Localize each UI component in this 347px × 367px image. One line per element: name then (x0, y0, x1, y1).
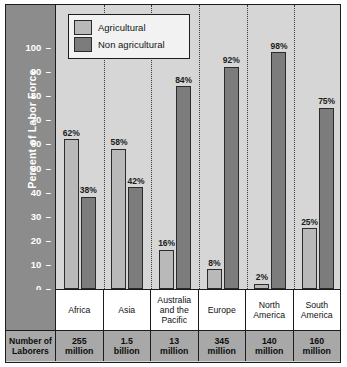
bar-value-label-non-agricultural-4: 92% (218, 55, 245, 65)
bar-value-label-agricultural-2: 58% (105, 137, 132, 147)
laborers-row-header: Number of Laborers (6, 331, 56, 361)
bar-value-label-non-agricultural-1: 38% (75, 185, 102, 195)
chart-legend: AgriculturalNon agricultural (68, 14, 190, 59)
y-axis-tick-60: 60 – (31, 138, 53, 149)
category-cell-6: SouthAmerica (294, 290, 341, 330)
category-cell-2: Asia (104, 290, 152, 330)
bar-group-4: 8%92% (199, 5, 247, 289)
y-axis-band: Percent of Labor Force 100 –90 –80 –70 –… (6, 5, 56, 290)
chart-figure: Percent of Labor Force 100 –90 –80 –70 –… (0, 0, 347, 367)
bar-non-agricultural-5 (271, 52, 286, 288)
y-axis-tick-80: 80 – (31, 90, 53, 101)
laborers-header-line2: Laborers (12, 346, 49, 356)
category-row-spacer (6, 290, 56, 330)
bar-value-label-non-agricultural-3: 84% (170, 75, 197, 85)
legend-label-1: Agricultural (98, 22, 146, 33)
legend-item-2: Non agricultural (74, 36, 184, 53)
bar-group-6: 25%75% (294, 5, 342, 289)
y-axis-tick-40: 40 – (31, 186, 53, 197)
laborers-cell-3: 13million (151, 331, 199, 361)
bar-value-label-non-agricultural-2: 42% (122, 176, 149, 186)
category-cell-3: Australiaand thePacific (151, 290, 199, 330)
y-axis-tick-10: 10 – (31, 258, 53, 269)
laborers-cell-6: 160million (294, 331, 341, 361)
y-axis-tick-100: 100 – (26, 42, 54, 53)
category-cell-4: Europe (199, 290, 247, 330)
laborers-header-line1: Number of (9, 336, 52, 346)
bar-non-agricultural-4 (224, 67, 239, 289)
bar-agricultural-1 (64, 139, 79, 288)
laborers-cell-5: 140million (246, 331, 294, 361)
bar-value-label-non-agricultural-6: 75% (313, 96, 340, 106)
category-cell-5: NorthAmerica (246, 290, 294, 330)
laborers-cell-1: 255million (56, 331, 104, 361)
laborers-cell-2: 1.5billion (104, 331, 152, 361)
bar-non-agricultural-3 (176, 86, 191, 288)
legend-label-2: Non agricultural (98, 39, 165, 50)
bar-group-5: 2%98% (247, 5, 295, 289)
y-axis-tick-50: 50 – (31, 162, 53, 173)
legend-swatch-1 (74, 20, 92, 35)
bar-agricultural-6 (302, 228, 317, 288)
y-axis-tick-20: 20 – (31, 234, 53, 245)
legend-item-1: Agricultural (74, 19, 184, 36)
bar-agricultural-2 (111, 149, 126, 289)
bar-value-label-agricultural-1: 62% (58, 128, 85, 138)
legend-swatch-2 (74, 37, 92, 52)
bar-non-agricultural-2 (128, 187, 143, 288)
laborers-row: Number of Laborers 255million1.5billion1… (6, 331, 340, 361)
bar-value-label-non-agricultural-5: 98% (265, 41, 292, 51)
y-axis-tick-30: 30 – (31, 210, 53, 221)
chart-area: Percent of Labor Force 100 –90 –80 –70 –… (6, 5, 340, 290)
y-axis-tick-70: 70 – (31, 114, 53, 125)
category-label-row: AfricaAsiaAustraliaand thePacificEuropeN… (6, 290, 340, 331)
bar-non-agricultural-1 (81, 197, 96, 289)
y-axis-tick-90: 90 – (31, 66, 53, 77)
bar-non-agricultural-6 (319, 108, 334, 289)
bar-agricultural-4 (207, 269, 222, 288)
laborers-cell-4: 345million (199, 331, 247, 361)
category-cell-1: Africa (56, 290, 104, 330)
figure-frame: Percent of Labor Force 100 –90 –80 –70 –… (5, 4, 341, 363)
bar-agricultural-3 (159, 250, 174, 289)
bar-agricultural-5 (254, 284, 269, 289)
